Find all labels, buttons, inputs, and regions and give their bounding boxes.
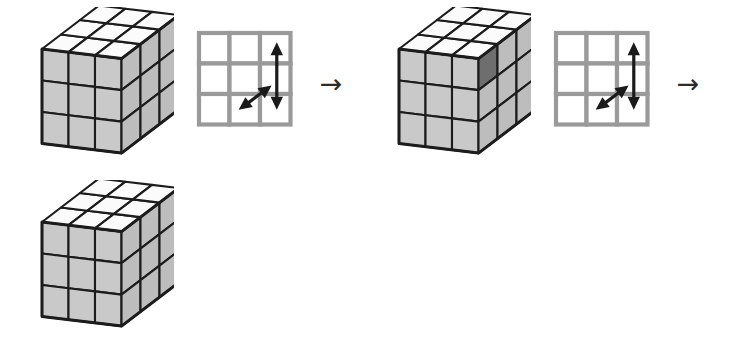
move-diagram-2-diagram <box>550 27 654 147</box>
grid-cell <box>556 94 587 125</box>
cube-state-1-illustration <box>24 7 174 167</box>
right-arrow-icon: → <box>320 70 343 97</box>
cube-state-2-illustration <box>381 7 531 167</box>
grid-cell <box>199 33 230 64</box>
grid-cell <box>587 33 618 64</box>
move-diagram-1 <box>185 0 305 173</box>
move-diagram-2 <box>542 0 662 173</box>
grid-cell <box>199 63 230 94</box>
move-diagram-1-diagram <box>193 27 297 147</box>
cube-state-1 <box>0 0 185 173</box>
sequence-arrow-1: → <box>305 0 357 173</box>
right-arrow-icon: → <box>677 70 700 97</box>
grid-cell <box>587 63 618 94</box>
grid-cell <box>556 33 587 64</box>
grid-cell <box>199 94 230 125</box>
cube-state-3-illustration <box>24 180 174 340</box>
grid-cell <box>230 33 261 64</box>
sequence-arrow-2: → <box>662 0 714 173</box>
cube-state-2 <box>357 0 542 173</box>
grid-cell <box>556 63 587 94</box>
cube-state-3 <box>0 173 185 346</box>
grid-cell <box>230 63 261 94</box>
cube-move-sequence: → → <box>0 0 733 346</box>
